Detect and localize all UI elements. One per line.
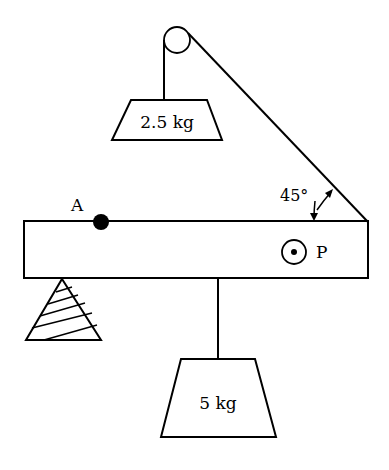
point-a-dot: [93, 214, 109, 230]
pulley: [164, 27, 190, 53]
label-upper-mass: 2.5 kg: [140, 112, 194, 132]
label-p: P: [316, 242, 327, 262]
lever-diagram-svg: A P 45° 2.5 kg 5 kg: [0, 0, 389, 470]
point-p-dot: [291, 249, 297, 255]
diagonal-string: [188, 33, 368, 222]
arrowhead-down: [310, 213, 318, 221]
label-angle: 45°: [280, 186, 308, 205]
label-lower-mass: 5 kg: [199, 393, 237, 413]
label-a: A: [70, 195, 84, 215]
diagram: A P 45° 2.5 kg 5 kg: [0, 0, 389, 470]
